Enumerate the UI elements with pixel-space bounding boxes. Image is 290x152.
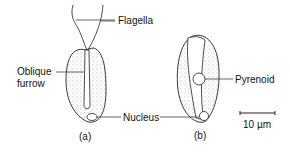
scale-bar-label: 10 µm [243,119,271,130]
cell-diagram: Flagella Oblique furrow Nucleus Pyrenoid… [0,0,290,152]
flagellum-left [72,5,87,50]
cell-b [160,35,233,122]
nucleus-b [200,112,209,121]
label-nucleus: Nucleus [123,112,159,123]
cell-a [56,5,121,122]
pyrenoid [193,73,205,85]
label-furrow: furrow [17,78,45,89]
scale-bar [240,111,275,115]
nucleus-a [87,114,97,121]
oblique-furrow [84,50,90,109]
label-pyrenoid: Pyrenoid [235,74,274,85]
caption-b: (b) [194,130,206,141]
label-oblique: Oblique [17,66,51,77]
caption-a: (a) [79,131,91,142]
label-flagella: Flagella [118,15,153,26]
flagellum-right [88,5,103,50]
